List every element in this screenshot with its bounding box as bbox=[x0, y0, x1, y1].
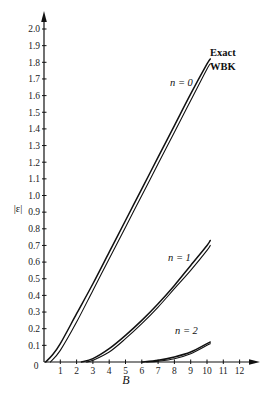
y-tick-label: 1.2 bbox=[28, 158, 40, 168]
y-tick-label: 0.8 bbox=[28, 224, 40, 234]
x-tick-label: 9 bbox=[188, 366, 193, 376]
y-tick-label: 0.4 bbox=[28, 291, 40, 301]
y-tick-label: 1.4 bbox=[28, 124, 40, 134]
y-tick-label: 0.9 bbox=[28, 207, 40, 217]
curves bbox=[46, 59, 211, 362]
y-tick-label: 1.3 bbox=[28, 141, 40, 151]
y-tick-label: 1.5 bbox=[28, 108, 40, 118]
n2-label: n = 2 bbox=[175, 325, 199, 336]
x-tick-label: 3 bbox=[91, 366, 96, 376]
y-axis-arrow-icon bbox=[41, 11, 47, 22]
x-tick-label: 6 bbox=[139, 366, 144, 376]
curve-n-1-exact bbox=[81, 240, 210, 362]
y-axis: 0.10.20.30.40.50.60.70.80.91.01.11.21.31… bbox=[28, 11, 47, 362]
x-tick-label: 7 bbox=[156, 366, 161, 376]
y-tick-label: 2.0 bbox=[28, 24, 40, 34]
y-tick-label: 0.2 bbox=[28, 324, 40, 334]
x-tick-label: 11 bbox=[219, 366, 228, 376]
y-tick-label: 0.3 bbox=[28, 307, 40, 317]
x-tick-label: 12 bbox=[235, 366, 245, 376]
curve-n-1-wbk bbox=[86, 245, 210, 362]
x-tick-label: 1 bbox=[58, 366, 63, 376]
n1-label: n = 1 bbox=[168, 252, 191, 263]
y-tick-label: 1.6 bbox=[28, 91, 40, 101]
y-tick-label: 1.7 bbox=[28, 74, 40, 84]
y-tick-label: 0.5 bbox=[28, 274, 40, 284]
x-tick-label: 8 bbox=[172, 366, 177, 376]
x-tick-label: 2 bbox=[74, 366, 79, 376]
y-tick-label: 1.1 bbox=[28, 174, 40, 184]
curve-n-0-exact bbox=[46, 59, 211, 362]
y-axis-title: |ε| bbox=[14, 203, 23, 214]
y-tick-label: 0.6 bbox=[28, 257, 40, 267]
chart-canvas: 0.10.20.30.40.50.60.70.80.91.01.11.21.31… bbox=[0, 0, 271, 394]
x-axis-title: B bbox=[122, 373, 130, 387]
y-tick-label: 1.9 bbox=[28, 41, 40, 51]
y-tick-label: 0.7 bbox=[28, 241, 40, 251]
y-tick-label: 1.8 bbox=[28, 58, 40, 68]
curve-n-2-exact bbox=[142, 342, 210, 362]
origin-label: 0 bbox=[34, 361, 39, 371]
x-axis-arrow-icon bbox=[249, 359, 260, 365]
legend-exact-label: Exact bbox=[210, 47, 236, 58]
y-tick-label: 1.0 bbox=[28, 191, 40, 201]
legend-wbk-label: WBK bbox=[210, 61, 237, 72]
n0-label: n = 0 bbox=[170, 77, 194, 88]
x-tick-label: 10 bbox=[202, 366, 212, 376]
y-tick-label: 0.1 bbox=[28, 341, 40, 351]
x-tick-label: 4 bbox=[107, 366, 112, 376]
